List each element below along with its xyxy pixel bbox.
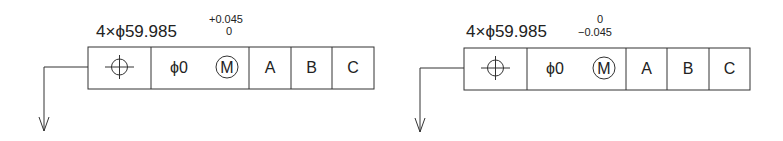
- datum-a: A: [641, 60, 652, 77]
- feature-control-frame: ϕ0 M A B C: [464, 48, 750, 90]
- size-label: 4×ϕ59.985: [96, 22, 177, 41]
- tolerance-lower: 0: [226, 25, 232, 37]
- tolerance-upper: +0.045: [209, 13, 243, 25]
- tolerance-upper: 0: [597, 13, 603, 25]
- leader-line: [415, 68, 464, 132]
- tolerance-value: ϕ0: [170, 59, 188, 76]
- size-label: 4×ϕ59.985: [466, 22, 547, 41]
- feature-control-frame: ϕ0 M A B C: [88, 47, 374, 89]
- mmc-modifier: M: [597, 60, 610, 77]
- datum-b: B: [306, 59, 317, 76]
- tolerance-lower: −0.045: [578, 26, 612, 38]
- leader-line: [39, 67, 88, 131]
- callout-left: 4×ϕ59.985 +0.045 0 ϕ0 M A B C: [39, 13, 374, 131]
- callout-right: 4×ϕ59.985 0 −0.045 ϕ0 M A B C: [415, 13, 750, 132]
- datum-c: C: [724, 60, 736, 77]
- datum-c: C: [347, 59, 359, 76]
- datum-a: A: [265, 59, 276, 76]
- position-icon: [481, 56, 510, 80]
- datum-b: B: [683, 60, 694, 77]
- drawing-canvas: 4×ϕ59.985 +0.045 0 ϕ0 M A B C: [0, 0, 783, 141]
- mmc-modifier: M: [220, 59, 233, 76]
- position-icon: [105, 55, 134, 79]
- tolerance-value: ϕ0: [546, 60, 564, 77]
